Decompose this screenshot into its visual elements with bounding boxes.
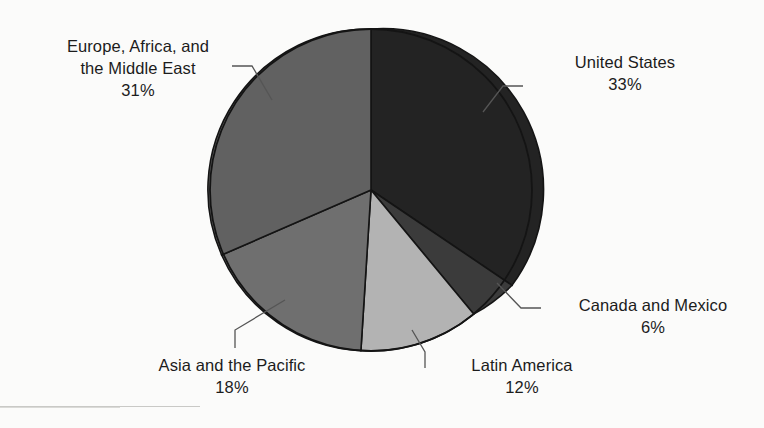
pie-chart-figure: Europe, Africa, and the Middle East 31% … (0, 0, 764, 428)
slice-label-text-line1: Latin America (432, 355, 612, 377)
slice-label-text-line1: Europe, Africa, and (26, 36, 250, 58)
scan-artifact-line-secondary (0, 407, 120, 408)
slice-label-percent: 6% (548, 317, 758, 339)
slice-label-text-line2: the Middle East (26, 58, 250, 80)
slice-label-europe-africa-middle-east: Europe, Africa, and the Middle East 31% (26, 36, 250, 101)
slice-label-asia-and-the-pacific: Asia and the Pacific 18% (120, 355, 344, 399)
slice-label-percent: 12% (432, 377, 612, 399)
slice-label-text-line1: United States (530, 52, 720, 74)
slice-label-text-line1: Canada and Mexico (548, 295, 758, 317)
slice-label-text-line1: Asia and the Pacific (120, 355, 344, 377)
slice-label-latin-america: Latin America 12% (432, 355, 612, 399)
slice-label-percent: 18% (120, 377, 344, 399)
slice-label-percent: 33% (530, 74, 720, 96)
slice-label-canada-and-mexico: Canada and Mexico 6% (548, 295, 758, 339)
slice-label-percent: 31% (26, 80, 250, 102)
slice-label-united-states: United States 33% (530, 52, 720, 96)
